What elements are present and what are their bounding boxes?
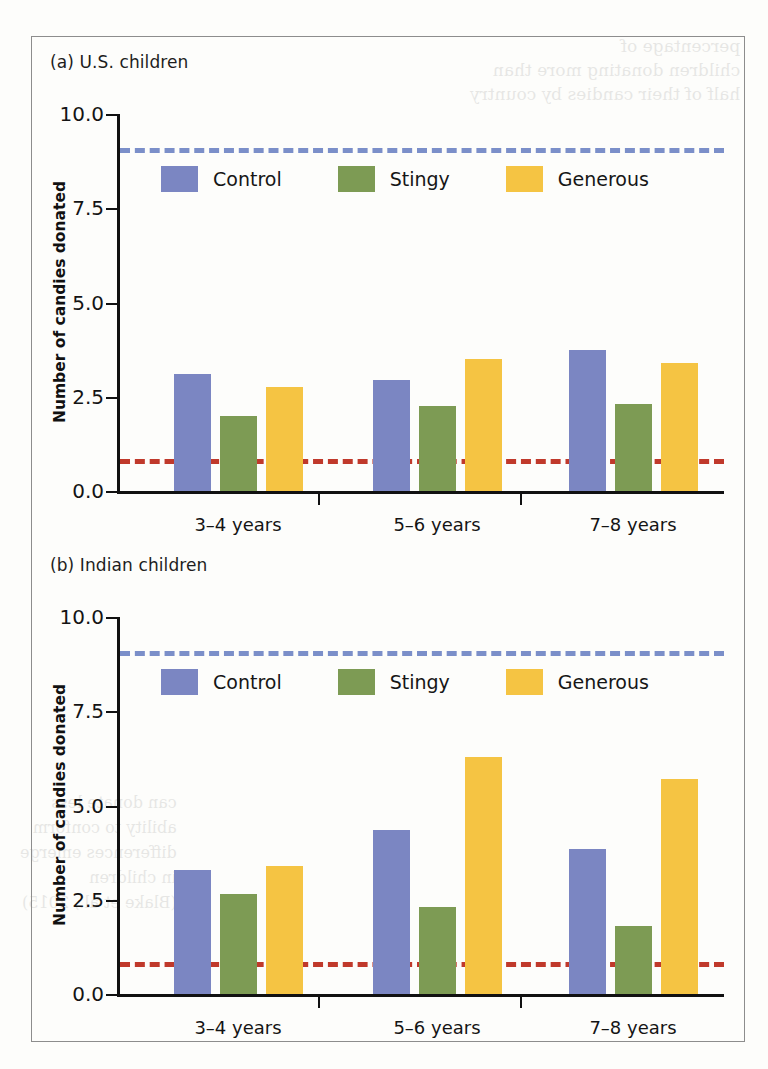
bar-generous <box>465 757 502 995</box>
legend-label-stingy: Stingy <box>390 168 450 190</box>
figure-frame: (a) U.S. children Number of candies dona… <box>31 36 745 1042</box>
y-tick <box>106 806 117 808</box>
y-tick <box>106 397 117 399</box>
y-tick-label: 2.5 <box>72 888 104 912</box>
y-tick-label: 0.0 <box>72 982 104 1006</box>
reference-line-upper <box>120 148 724 153</box>
bar-control <box>373 380 410 491</box>
reference-line-upper <box>120 651 724 656</box>
x-tick-label: 3–4 years <box>194 1017 281 1038</box>
bar-control <box>569 350 606 491</box>
legend-item-generous: Generous <box>506 669 649 695</box>
y-tick <box>106 303 117 305</box>
bar-stingy <box>419 907 456 994</box>
bar-stingy <box>220 416 257 491</box>
panel-a-y-axis <box>117 114 120 491</box>
y-tick <box>106 617 117 619</box>
legend-label-control: Control <box>213 168 282 190</box>
y-tick-label: 7.5 <box>72 196 104 220</box>
legend-label-control: Control <box>213 671 282 693</box>
x-tick-label: 3–4 years <box>194 514 281 535</box>
y-tick <box>106 114 117 116</box>
bar-generous <box>266 866 303 994</box>
bar-control <box>174 870 211 994</box>
legend-swatch-generous <box>506 669 543 695</box>
bar-control <box>569 849 606 994</box>
panel-b-plot-area: 3–4 years 5–6 years 7–8 years Control St… <box>117 617 724 994</box>
bar-generous <box>266 387 303 491</box>
panel-a-plot-area: 3–4 years 5–6 years 7–8 years Control St… <box>117 114 724 491</box>
y-tick <box>106 711 117 713</box>
legend-swatch-stingy <box>338 669 375 695</box>
y-tick <box>106 208 117 210</box>
x-tick <box>318 996 320 1008</box>
panel-b-title: (b) Indian children <box>50 555 207 575</box>
panel-a-legend: Control Stingy Generous <box>161 166 649 192</box>
legend-label-stingy: Stingy <box>390 671 450 693</box>
bar-generous <box>465 359 502 491</box>
legend-swatch-stingy <box>338 166 375 192</box>
y-tick-label: 7.5 <box>72 699 104 723</box>
bar-control <box>373 830 410 994</box>
panel-b-y-tick-labels: 0.0 2.5 5.0 7.5 10.0 <box>32 617 104 994</box>
legend-item-generous: Generous <box>506 166 649 192</box>
legend-item-control: Control <box>161 166 282 192</box>
panel-b-y-axis <box>117 617 120 994</box>
panel-b-legend: Control Stingy Generous <box>161 669 649 695</box>
legend-swatch-control <box>161 669 198 695</box>
x-tick-label: 7–8 years <box>589 1017 676 1038</box>
legend-label-generous: Generous <box>558 671 649 693</box>
y-tick <box>106 491 117 493</box>
x-tick <box>318 493 320 505</box>
y-tick-label: 5.0 <box>72 794 104 818</box>
legend-item-stingy: Stingy <box>338 669 450 695</box>
bar-stingy <box>419 406 456 491</box>
bar-stingy <box>615 404 652 491</box>
legend-item-control: Control <box>161 669 282 695</box>
y-tick-label: 2.5 <box>72 385 104 409</box>
y-tick-label: 10.0 <box>59 605 104 629</box>
panel-a-y-tick-labels: 0.0 2.5 5.0 7.5 10.0 <box>32 114 104 491</box>
legend-item-stingy: Stingy <box>338 166 450 192</box>
bar-generous <box>661 779 698 994</box>
x-tick <box>520 996 522 1008</box>
legend-swatch-control <box>161 166 198 192</box>
y-tick-label: 10.0 <box>59 102 104 126</box>
x-tick-label: 7–8 years <box>589 514 676 535</box>
legend-label-generous: Generous <box>558 168 649 190</box>
x-tick <box>520 493 522 505</box>
legend-swatch-generous <box>506 166 543 192</box>
bar-generous <box>661 363 698 491</box>
y-tick-label: 0.0 <box>72 479 104 503</box>
panel-b-x-axis <box>117 994 724 997</box>
bar-stingy <box>220 894 257 994</box>
panel-a-title: (a) U.S. children <box>50 52 188 72</box>
bar-control <box>174 374 211 491</box>
panel-indian-children: (b) Indian children Number of candies do… <box>32 540 746 1043</box>
y-tick <box>106 994 117 996</box>
bar-stingy <box>615 926 652 994</box>
x-tick-label: 5–6 years <box>393 514 480 535</box>
panel-a-x-axis <box>117 491 724 494</box>
y-tick-label: 5.0 <box>72 291 104 315</box>
x-tick-label: 5–6 years <box>393 1017 480 1038</box>
y-tick <box>106 900 117 902</box>
panel-us-children: (a) U.S. children Number of candies dona… <box>32 37 746 540</box>
